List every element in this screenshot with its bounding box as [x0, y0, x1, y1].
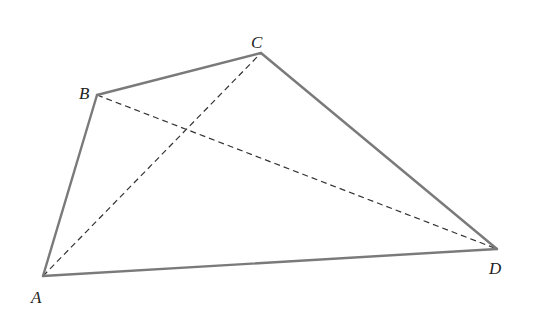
- vertex-labels-group: ABCD: [30, 33, 502, 307]
- edge-da: [43, 249, 497, 276]
- edges-group: [43, 53, 497, 276]
- vertex-label-a: A: [30, 288, 42, 307]
- edge-bc: [97, 53, 261, 95]
- diagram-canvas: ABCD: [0, 0, 533, 322]
- edge-cd: [261, 53, 497, 249]
- quadrilateral-diagram: ABCD: [0, 0, 533, 322]
- diagonals-group: [43, 53, 497, 276]
- diagonal-bd: [97, 95, 497, 249]
- edge-ab: [43, 95, 97, 276]
- vertex-label-c: C: [251, 33, 263, 52]
- vertex-label-d: D: [488, 259, 502, 278]
- vertex-label-b: B: [79, 84, 90, 103]
